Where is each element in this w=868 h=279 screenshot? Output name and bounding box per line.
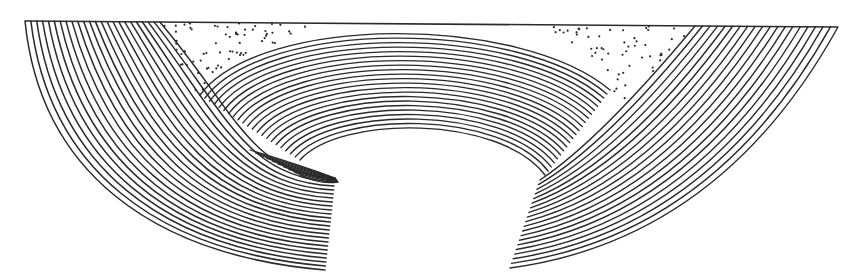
surface-line — [25, 21, 838, 27]
central-arch-strata — [200, 34, 610, 183]
geological-section-figure — [0, 0, 868, 279]
section-drawing — [0, 0, 868, 279]
left-dipping-strata — [25, 21, 335, 270]
